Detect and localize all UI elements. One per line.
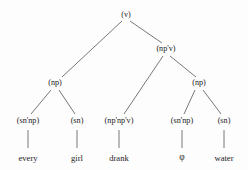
tree-node-leaf-w_every: every (18, 154, 37, 163)
tree-node-leaf-w_drank: drank (109, 154, 129, 163)
tree-edge (59, 90, 75, 114)
tree-edge-layer (0, 0, 248, 170)
tree-edge (124, 56, 163, 114)
tree-node-category-snnp_1: (sn'np) (17, 117, 39, 125)
tree-node-leaf-w_phi: φ (179, 153, 184, 162)
tree-node-category-np_left: (np) (48, 79, 62, 87)
tree-edge (170, 56, 196, 77)
tree-node-leaf-w_girl: girl (71, 154, 83, 163)
tree-node-category-npv: (np'v) (156, 45, 175, 53)
tree-node-category-npnpv: (np'np'v) (105, 117, 134, 125)
tree-node-category-sn_1: (sn) (71, 117, 84, 125)
tree-edge (62, 21, 122, 77)
tree-node-leaf-w_water: water (214, 154, 233, 163)
tree-node-category-root: (v) (121, 11, 131, 19)
syntax-tree-diagram: (v)(np'v)(np)(np)(sn'np)(sn)(np'np'v)(sn… (0, 0, 248, 170)
tree-edge (203, 90, 221, 114)
tree-edge (130, 21, 162, 43)
tree-node-category-np_right: (np) (192, 79, 206, 87)
tree-node-category-sn_2: (sn) (218, 117, 231, 125)
tree-edge (31, 90, 51, 114)
tree-node-category-snnp_2: (sn'np) (171, 117, 193, 125)
tree-edge (184, 90, 195, 114)
